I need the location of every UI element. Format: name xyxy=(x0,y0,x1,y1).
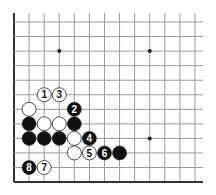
star-point-icon xyxy=(148,136,152,140)
star-point-icon xyxy=(57,49,61,53)
white-stone xyxy=(67,131,81,145)
black-stone xyxy=(22,117,36,131)
move-number: 6 xyxy=(102,148,108,159)
black-stone xyxy=(22,131,36,145)
move-number: 5 xyxy=(87,148,93,159)
black-stone xyxy=(67,117,81,131)
go-board: 13245687 xyxy=(0,0,216,195)
black-stone xyxy=(52,131,66,145)
white-stone: 1 xyxy=(37,88,51,102)
white-stone xyxy=(52,117,66,131)
move-number: 3 xyxy=(56,89,62,100)
black-stone: 6 xyxy=(97,146,111,160)
white-stone: 5 xyxy=(82,146,96,160)
white-stone xyxy=(22,102,36,116)
move-number: 8 xyxy=(26,162,32,173)
white-stone: 3 xyxy=(52,88,66,102)
black-stone: 4 xyxy=(82,131,96,145)
black-stone xyxy=(113,146,127,160)
white-stone: 7 xyxy=(37,161,51,175)
move-number: 4 xyxy=(87,133,93,144)
black-stone: 8 xyxy=(22,161,36,175)
white-stone xyxy=(67,146,81,160)
star-point-icon xyxy=(148,49,152,53)
move-number: 1 xyxy=(41,89,47,100)
move-number: 2 xyxy=(72,104,78,115)
black-stone xyxy=(37,131,51,145)
move-number: 7 xyxy=(41,162,47,173)
white-stone xyxy=(37,117,51,131)
black-stone: 2 xyxy=(67,102,81,116)
